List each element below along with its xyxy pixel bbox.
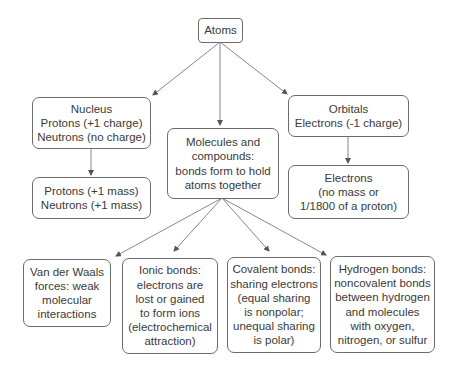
node-covalent-bonds: Covalent bonds: sharing electrons (equal… xyxy=(227,257,321,353)
node-nucleus: Nucleus Protons (+1 charge) Neutrons (no… xyxy=(32,97,151,149)
node-van-der-waals-label: Van der Waals forces: weak molecular int… xyxy=(30,265,104,322)
node-orbitals-label: Orbitals Electrons (-1 charge) xyxy=(295,102,402,130)
node-covalent-bonds-label: Covalent bonds: sharing electrons (equal… xyxy=(230,262,318,347)
node-electrons-mass-label: Electrons (no mass or 1/1800 of a proton… xyxy=(300,171,397,214)
node-orbitals: Orbitals Electrons (-1 charge) xyxy=(288,95,409,137)
node-ionic-bonds: Ionic bonds: electrons are lost or gaine… xyxy=(122,258,218,354)
node-van-der-waals: Van der Waals forces: weak molecular int… xyxy=(23,259,111,327)
edge-atoms-nucleus xyxy=(153,42,220,95)
node-electrons-mass: Electrons (no mass or 1/1800 of a proton… xyxy=(288,165,409,219)
node-molecules: Molecules and compounds: bonds form to h… xyxy=(167,128,279,199)
edge-atoms-orbitals xyxy=(220,42,287,94)
node-molecules-label: Molecules and compounds: bonds form to h… xyxy=(175,135,270,192)
edge-molecules-covalent xyxy=(222,198,269,251)
node-hydrogen-bonds: Hydrogen bonds: noncovalent bonds betwee… xyxy=(330,256,435,353)
edge-molecules-ionic xyxy=(174,198,222,251)
node-hydrogen-bonds-label: Hydrogen bonds: noncovalent bonds betwee… xyxy=(334,262,431,347)
node-ionic-bonds-label: Ionic bonds: electrons are lost or gaine… xyxy=(128,263,212,348)
node-atoms: Atoms xyxy=(198,18,243,43)
node-nucleus-mass-label: Protons (+1 mass) Neutrons (+1 mass) xyxy=(41,184,142,212)
node-atoms-label: Atoms xyxy=(204,23,237,37)
node-nucleus-label: Nucleus Protons (+1 charge) Neutrons (no… xyxy=(37,102,146,145)
node-nucleus-mass: Protons (+1 mass) Neutrons (+1 mass) xyxy=(32,177,151,219)
